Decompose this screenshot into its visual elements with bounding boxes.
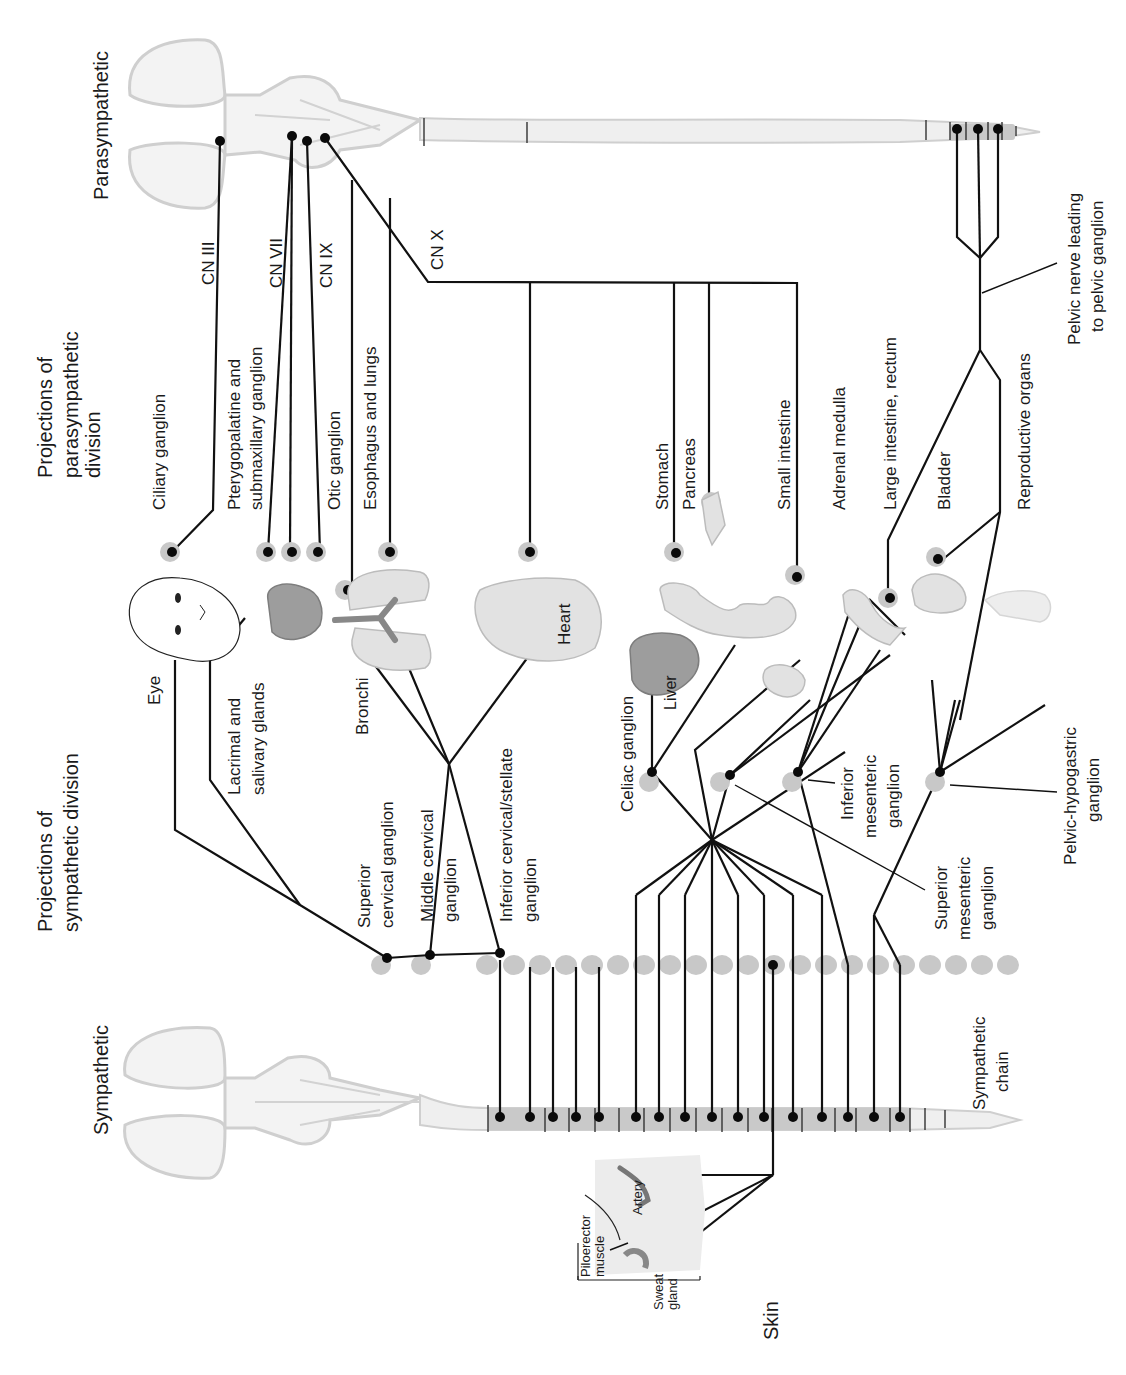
label-celiac-ganglion: Celiac ganglion [618, 696, 637, 812]
label-ciliary-ganglion: Ciliary ganglion [150, 394, 169, 510]
preganglionic-sympathetic-fibers [500, 840, 900, 1117]
label-pelvic-nerve-line2: to pelvic ganglion [1088, 201, 1107, 332]
label-artery: Artery [630, 1180, 645, 1215]
title-parasympathetic: Parasympathetic [90, 51, 112, 200]
label-liver: Liver [662, 675, 679, 710]
label-sweat-line1: Sweat [651, 1273, 666, 1310]
label-bladder: Bladder [935, 451, 954, 510]
label-sweat-line2: gland [665, 1278, 680, 1310]
label-superior-cervical-line1: Superior [355, 863, 374, 928]
salivary-gland-illustration [268, 584, 322, 639]
label-superior-mesenteric-line3: ganglion [978, 866, 997, 930]
heading-sympathetic-line1: Projections of [34, 810, 56, 932]
label-adrenal-medulla: Adrenal medulla [830, 387, 849, 510]
label-pancreas: Pancreas [680, 438, 699, 510]
sympathetic-spinal-cord [420, 1095, 1020, 1132]
label-sympathetic-chain-line2: chain [993, 1051, 1012, 1092]
label-pterygopalatine-line2: submaxillary ganglion [247, 347, 266, 510]
lungs-bronchi-illustration [335, 570, 431, 670]
heading-parasympathetic-line3: division [82, 411, 104, 478]
label-piloerector-line1: Piloerector [578, 1214, 593, 1277]
label-superior-mesenteric-line2: mesenteric [955, 856, 974, 940]
label-small-intestine: Small intestine [775, 399, 794, 510]
label-middle-cervical-line2: ganglion [441, 858, 460, 922]
label-superior-cervical-line2: cervical ganglion [378, 801, 397, 928]
label-inferior-mesenteric-line2: mesenteric [861, 754, 880, 838]
face-eye-illustration [129, 578, 240, 662]
label-esophagus-lungs: Esophagus and lungs [361, 346, 380, 510]
label-eye: Eye [145, 676, 164, 705]
label-lacrimal-line2: salivary glands [249, 683, 268, 795]
label-middle-cervical-line1: Middle cervical [418, 810, 437, 922]
heart-illustration [475, 578, 601, 661]
sympathetic-chain-ganglia [371, 955, 1019, 975]
label-pterygopalatine-line1: Pterygopalatine and [225, 359, 244, 510]
label-cn10: CN X [428, 229, 447, 270]
heading-parasympathetic-line2: parasympathetic [60, 331, 82, 478]
label-sympathetic-chain-line1: Sympathetic [970, 1016, 989, 1110]
title-sympathetic: Sympathetic [90, 1025, 112, 1135]
label-inferior-mesenteric-line1: Inferior [838, 767, 857, 820]
heading-sympathetic-line2: sympathetic division [60, 753, 82, 932]
sympathetic-brain [125, 1028, 420, 1179]
label-inferior-cervical-line2: ganglion [521, 858, 540, 922]
autonomic-nervous-system-diagram: Parasympathetic Sympathetic Projections … [0, 0, 1126, 1375]
label-inferior-mesenteric-line3: ganglion [884, 764, 903, 828]
parasympathetic-spinal-cord [420, 118, 1040, 146]
bladder-illustration [912, 574, 966, 613]
parasympathetic-brain [130, 40, 420, 208]
label-cn3: CN III [199, 242, 218, 285]
label-cn7: CN VII [267, 238, 286, 288]
label-bronchi: Bronchi [353, 677, 372, 735]
label-heart: Heart [555, 603, 574, 645]
label-pelvic-hypogastric-line1: Pelvic-hypogastric [1061, 727, 1080, 865]
label-skin: Skin [760, 1301, 782, 1340]
label-inferior-cervical-line1: Inferior cervical/stellate [497, 748, 516, 922]
label-stomach: Stomach [653, 443, 672, 510]
label-large-intestine: Large intestine, rectum [881, 337, 900, 510]
heading-parasympathetic-line1: Projections of [34, 356, 56, 478]
label-otic-ganglion: Otic ganglion [325, 411, 344, 510]
label-pelvic-nerve-line1: Pelvic nerve leading [1065, 193, 1084, 345]
label-piloerector-line2: muscle [592, 1236, 607, 1277]
label-reproductive-organs: Reproductive organs [1015, 353, 1034, 510]
label-cn9: CN IX [317, 243, 336, 288]
label-superior-mesenteric-line1: Superior [932, 865, 951, 930]
label-lacrimal-line1: Lacrimal and [225, 698, 244, 795]
label-pelvic-hypogastric-line2: ganglion [1084, 758, 1103, 822]
reproductive-illustration [985, 591, 1050, 622]
